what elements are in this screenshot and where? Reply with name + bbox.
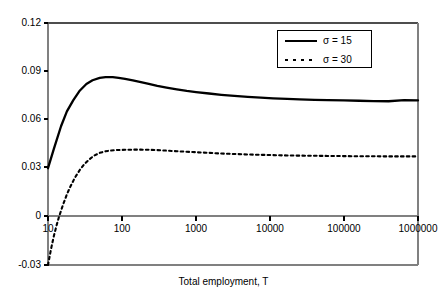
x-tick-label-5: 1000000	[389, 224, 447, 234]
legend-entry-1: σ = 30	[278, 50, 371, 69]
x-tick-label-2: 1000	[171, 224, 221, 234]
chart-container: 0.12 0.09 0.06 0.03 0 -0.03 10 100 1000 …	[0, 0, 447, 298]
x-tick-label-0: 10	[28, 224, 68, 234]
x-tick-label-3: 10000	[245, 224, 295, 234]
chart-plot-area	[0, 0, 447, 298]
y-tick-label-1: 0.09	[0, 66, 41, 76]
y-tick-label-0: 0.12	[0, 18, 41, 28]
x-tick-label-1: 100	[97, 224, 147, 234]
y-tick-label-5: -0.03	[0, 260, 41, 270]
y-tick-label-3: 0.03	[0, 162, 41, 172]
legend-entry-0: σ = 15	[278, 31, 371, 50]
legend-line-dotted-icon	[285, 55, 317, 65]
legend-label-0: σ = 15	[323, 35, 352, 46]
x-tick-marks	[48, 216, 418, 221]
y-tick-label-4: 0	[0, 211, 41, 221]
series-line-1	[48, 150, 418, 265]
legend-label-1: σ = 30	[323, 54, 352, 65]
chart-legend: σ = 15 σ = 30	[277, 30, 372, 68]
data-series-layer	[48, 77, 418, 265]
x-tick-label-4: 100000	[317, 224, 371, 234]
y-tick-label-2: 0.06	[0, 114, 41, 124]
legend-line-solid-icon	[285, 36, 317, 46]
x-axis-title: Total employment, T	[0, 276, 447, 287]
